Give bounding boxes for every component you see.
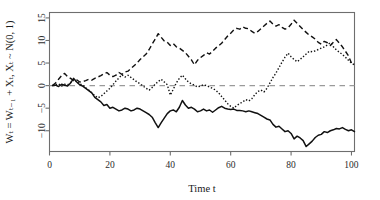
x-axis-tick-label: 60 — [226, 160, 236, 170]
x-axis-title: Time t — [188, 183, 215, 194]
x-axis-tick-label: 100 — [344, 160, 359, 170]
plot-frame — [50, 13, 355, 152]
x-axis-tick-group: 020406080100 — [47, 152, 359, 170]
x-axis-title-text: Time t — [188, 183, 215, 194]
walk-dotted — [53, 43, 355, 108]
y-axis-tick-label: 0 — [37, 83, 47, 88]
y-axis-tick-label: 5 — [37, 60, 47, 65]
random-walk-figure: Wₜ = Wₜ₋₁ + Xₜ, Xₜ ~ N(0, 1) −10−5051015… — [0, 0, 380, 200]
x-axis-tick-label: 0 — [47, 160, 52, 170]
walk-dashed — [53, 20, 355, 85]
series-group — [53, 20, 355, 146]
walk-solid — [53, 78, 355, 146]
y-axis-title: Wₜ = Wₜ₋₁ + Xₜ, Xₜ ~ N(0, 1) — [4, 20, 16, 144]
y-axis-tick-group: −10−5051015 — [37, 13, 50, 138]
y-axis-tick-label: 10 — [37, 35, 47, 45]
x-axis-tick-label: 80 — [286, 160, 296, 170]
plot-canvas: Wₜ = Wₜ₋₁ + Xₜ, Xₜ ~ N(0, 1) −10−5051015… — [0, 0, 380, 200]
x-axis-tick-label: 20 — [105, 160, 115, 170]
y-axis-tick-label: 15 — [37, 13, 47, 23]
y-axis-tick-label: −10 — [37, 123, 47, 138]
x-axis-tick-label: 40 — [166, 160, 176, 170]
y-axis-title-text: Wₜ = Wₜ₋₁ + Xₜ, Xₜ ~ N(0, 1) — [4, 20, 16, 144]
y-axis-tick-label: −5 — [37, 103, 47, 113]
